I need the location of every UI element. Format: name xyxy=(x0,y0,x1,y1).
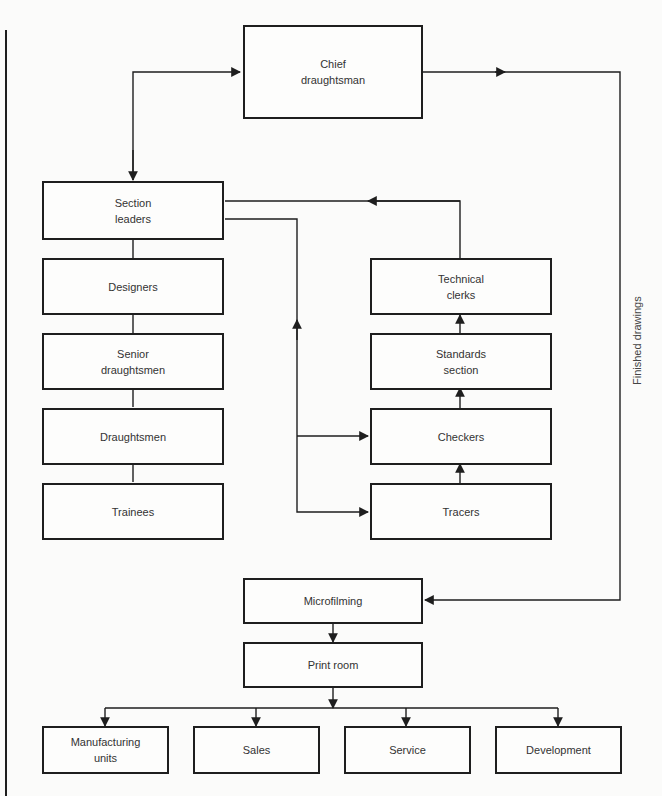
box-print-room: Print room xyxy=(243,642,423,688)
box-checkers: Checkers xyxy=(370,408,552,465)
finished-drawings-label: Finished drawings xyxy=(631,296,643,385)
box-standards-section: Standards section xyxy=(370,333,552,390)
box-tracers: Tracers xyxy=(370,483,552,540)
box-designers: Designers xyxy=(42,258,224,315)
box-technical-clerks: Technical clerks xyxy=(370,258,552,315)
box-service: Service xyxy=(344,726,471,774)
box-trainees: Trainees xyxy=(42,483,224,540)
box-chief-draughtsman: Chief draughtsman xyxy=(243,25,423,119)
box-draughtsmen: Draughtsmen xyxy=(42,408,224,465)
box-senior-draughtsmen: Senior draughtsmen xyxy=(42,333,224,390)
box-microfilming: Microfilming xyxy=(243,578,423,624)
box-section-leaders: Section leaders xyxy=(42,181,224,240)
box-sales: Sales xyxy=(193,726,320,774)
box-development: Development xyxy=(495,726,622,774)
box-manufacturing-units: Manufacturing units xyxy=(42,726,169,774)
